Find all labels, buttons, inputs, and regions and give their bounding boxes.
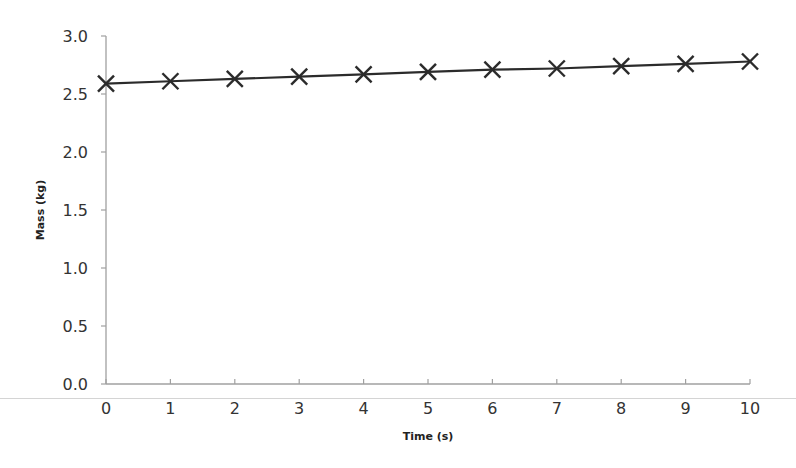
x-axis-title: Time (s) xyxy=(403,430,454,443)
y-tick-label: 2.5 xyxy=(63,85,88,104)
x-tick-label: 0 xyxy=(101,399,111,418)
y-axis-title: Mass (kg) xyxy=(34,180,47,241)
x-tick-label: 1 xyxy=(165,399,175,418)
data-series xyxy=(98,54,758,92)
y-tick-label: 0.5 xyxy=(63,317,88,336)
y-tick-label: 0.0 xyxy=(63,375,88,394)
x-tick-label: 6 xyxy=(487,399,497,418)
x-tick-label: 8 xyxy=(616,399,626,418)
y-tick-label: 3.0 xyxy=(63,27,88,46)
x-tick-label: 4 xyxy=(359,399,369,418)
x-tick-label: 10 xyxy=(740,399,760,418)
y-tick-label: 2.0 xyxy=(63,143,88,162)
y-tick-label: 1.5 xyxy=(63,201,88,220)
x-tick-label: 2 xyxy=(230,399,240,418)
x-tick-label: 3 xyxy=(294,399,304,418)
x-tick-label: 7 xyxy=(552,399,562,418)
x-tick-label: 9 xyxy=(681,399,691,418)
line-chart: 0.00.51.01.52.02.53.0 012345678910 Mass … xyxy=(0,0,796,468)
y-tick-label: 1.0 xyxy=(63,259,88,278)
x-tick-label: 5 xyxy=(423,399,433,418)
y-axis: 0.00.51.01.52.02.53.0 xyxy=(63,27,106,394)
x-axis: 012345678910 xyxy=(101,379,760,418)
